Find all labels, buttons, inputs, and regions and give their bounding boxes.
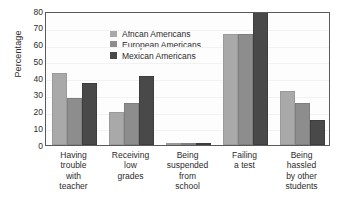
y-tick-label: 30 [21, 91, 43, 100]
y-tick-label: 70 [21, 24, 43, 33]
x-axis-category-label: Beingsuspendedfromschool [159, 150, 216, 192]
legend-item: European Americans [110, 39, 201, 50]
x-axis-category-label: Beinghassledby otherstudents [273, 150, 330, 192]
y-tick-label: 60 [21, 41, 43, 50]
x-label-line: school [159, 181, 216, 191]
legend-swatch-mexican-americans [110, 52, 117, 59]
x-axis-category-label: Havingtroublewithteacher [45, 150, 102, 192]
gridline [46, 30, 329, 31]
gridline [46, 47, 329, 48]
y-tick-label: 40 [21, 75, 43, 84]
x-label-line: low [102, 160, 159, 170]
bar [196, 143, 211, 145]
x-axis-category-label: Failinga test [216, 150, 273, 171]
x-label-line: Being [273, 150, 330, 160]
legend-swatch-african-americans [110, 30, 117, 37]
legend-label: European Americans [122, 40, 201, 50]
bar [223, 34, 238, 145]
x-label-line: a test [216, 160, 273, 170]
bar [181, 143, 196, 145]
bar [166, 143, 181, 145]
y-tick-label: 0 [21, 142, 43, 151]
bar [67, 98, 82, 145]
bar [82, 83, 97, 145]
x-axis-labels: HavingtroublewithteacherReceivinglowgrad… [45, 150, 330, 205]
x-label-line: Failing [216, 150, 273, 160]
bar [238, 34, 253, 145]
bar [295, 103, 310, 145]
y-tick-label: 10 [21, 125, 43, 134]
legend: African Americans European Americans Mex… [108, 26, 205, 63]
bar [253, 12, 268, 145]
x-label-line: trouble [45, 160, 102, 170]
bar [52, 73, 67, 145]
bar [310, 120, 325, 145]
y-tick-label: 20 [21, 108, 43, 117]
x-label-line: Having [45, 150, 102, 160]
gridline [46, 63, 329, 64]
bar [139, 76, 154, 145]
x-label-line: suspended [159, 160, 216, 170]
bar [109, 112, 124, 146]
gridline [46, 80, 329, 81]
x-label-line: Being [159, 150, 216, 160]
plot-area: African Americans European Americans Mex… [45, 12, 330, 146]
x-label-line: grades [102, 171, 159, 181]
bar [280, 91, 295, 145]
legend-item: Mexican Americans [110, 50, 201, 61]
legend-label: Mexican Americans [122, 51, 196, 61]
bar-chart: Percentage 80706050403020100 African Ame… [0, 0, 339, 205]
x-label-line: by other [273, 171, 330, 181]
bar [124, 103, 139, 145]
x-label-line: with [45, 171, 102, 181]
x-axis-category-label: Receivinglowgrades [102, 150, 159, 181]
y-tick-label: 50 [21, 58, 43, 67]
y-tick-label: 80 [21, 8, 43, 17]
x-label-line: Receiving [102, 150, 159, 160]
x-label-line: from [159, 171, 216, 181]
x-label-line: teacher [45, 181, 102, 191]
x-label-line: students [273, 181, 330, 191]
x-label-line: hassled [273, 160, 330, 170]
